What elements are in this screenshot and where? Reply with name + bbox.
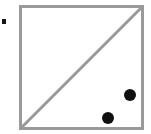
left-edge-marker bbox=[2, 19, 6, 24]
point-lower bbox=[102, 112, 114, 124]
figure-canvas: Square with diagonal and two filled poin… bbox=[0, 0, 151, 134]
figure-svg bbox=[0, 0, 151, 134]
point-upper bbox=[124, 89, 136, 101]
